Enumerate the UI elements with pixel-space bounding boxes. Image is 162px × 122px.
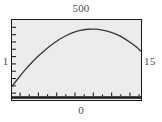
x-axis <box>12 93 141 98</box>
axis-label-left: 1 <box>1 55 10 67</box>
axis-label-top: 500 <box>0 2 162 14</box>
chart-figure: 500 <box>0 0 162 122</box>
axis-label-bottom: 0 <box>0 104 162 116</box>
x-axis-ticks <box>20 93 139 97</box>
plot-svg <box>12 20 141 100</box>
data-curve <box>12 29 141 86</box>
plot-area <box>11 19 142 101</box>
axis-label-right: 15 <box>144 55 155 67</box>
